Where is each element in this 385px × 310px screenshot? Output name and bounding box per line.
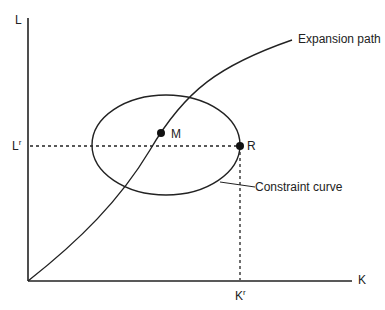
point-m-label: M: [171, 128, 181, 140]
constraint-curve-pointer: [220, 182, 255, 187]
expansion-path-curve: [28, 40, 292, 281]
point-r-label: R: [247, 140, 256, 152]
point-m-marker: [157, 129, 165, 137]
l-r-base: L: [12, 139, 19, 153]
k-r-label: Kr: [235, 290, 246, 302]
k-r-base: K: [235, 289, 243, 303]
l-r-label: Lr: [12, 140, 21, 152]
expansion-path-label: Expansion path: [298, 33, 381, 45]
y-axis-label: L: [15, 14, 22, 26]
l-r-sup: r: [19, 138, 22, 147]
x-axis-label: K: [358, 274, 366, 286]
point-r-marker: [236, 142, 244, 150]
constraint-curve-label: Constraint curve: [255, 181, 342, 193]
constraint-curve: [92, 95, 240, 195]
k-r-sup: r: [243, 288, 246, 297]
diagram-canvas: [0, 0, 385, 310]
